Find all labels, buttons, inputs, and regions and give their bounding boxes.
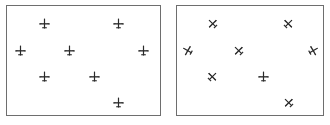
airplane-icon <box>138 45 149 56</box>
airplane-icon <box>89 71 100 82</box>
right-panel-frame <box>176 5 324 116</box>
airplane-icon <box>113 97 124 108</box>
airplane-icon <box>39 18 50 29</box>
airplane-icon <box>15 45 26 56</box>
airplane-icon <box>64 45 75 56</box>
airplane-icon <box>113 18 124 29</box>
airplane-icon <box>39 71 50 82</box>
left-panel-frame <box>6 5 161 116</box>
airplane-icon <box>258 71 269 82</box>
